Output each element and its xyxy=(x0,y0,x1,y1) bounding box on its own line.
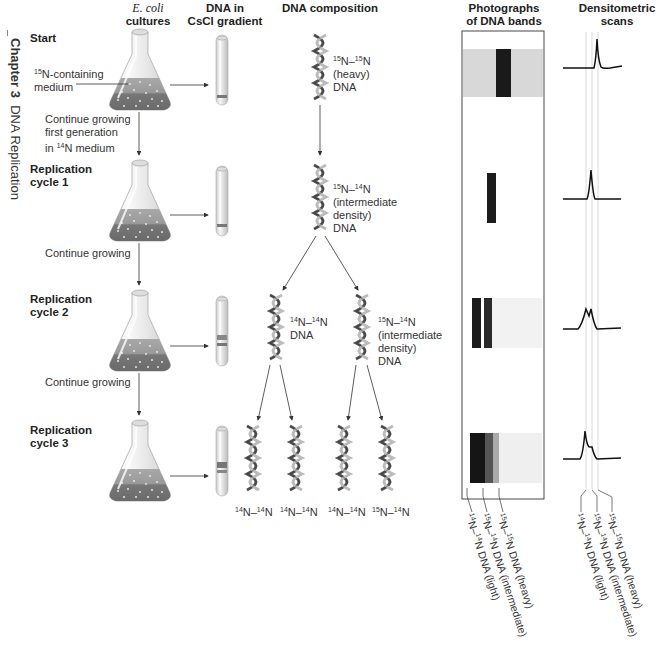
helix-cycle3-4 xyxy=(381,426,393,490)
helix-cycle3-1 xyxy=(247,426,259,490)
tube-cycle3 xyxy=(216,426,228,496)
tube-cycle2 xyxy=(216,296,228,366)
helix-cycle3-3 xyxy=(338,426,350,490)
photographs-panel xyxy=(462,31,544,512)
helix-start xyxy=(314,35,326,99)
tube-start xyxy=(216,35,228,105)
flask-cycle3 xyxy=(110,420,171,501)
densitometric-scans xyxy=(563,32,622,512)
diagram-graphics xyxy=(0,0,660,665)
flask-cycle1 xyxy=(110,160,171,241)
helix-cycle3-2 xyxy=(290,426,302,490)
helix-cycle1 xyxy=(314,165,326,229)
helix-cycle2-left xyxy=(270,295,282,359)
flask-cycle2 xyxy=(110,290,171,371)
flask-start xyxy=(110,29,171,110)
helix-cycle2-right xyxy=(356,295,368,359)
